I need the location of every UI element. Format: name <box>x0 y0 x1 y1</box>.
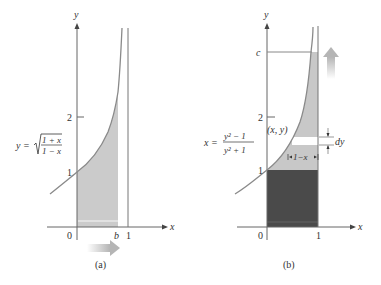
shaded-area-under-curve <box>77 92 118 227</box>
tick-label-x-1: 1 <box>316 230 321 241</box>
y-axis-arrow-icon <box>75 23 80 29</box>
tick-label-y-1: 1 <box>67 167 72 178</box>
svg-text:y =: y = <box>15 140 30 151</box>
point-label: (x, y) <box>267 124 288 136</box>
tick-label-x-0: 0 <box>258 230 263 241</box>
tick-label-y-c: c <box>256 47 261 58</box>
equation-a: y = 1 + x 1 − x <box>15 134 62 156</box>
y-axis-label: y <box>73 9 79 20</box>
svg-text:1−x: 1−x <box>293 152 308 162</box>
dark-square-region <box>267 170 318 227</box>
svg-text:x =: x = <box>203 137 218 148</box>
x-axis-arrow-icon <box>162 225 168 230</box>
tick-label-x-1: 1 <box>126 230 131 241</box>
tick-label-y-2: 2 <box>258 112 263 123</box>
x-axis-label: x <box>169 221 175 232</box>
x-axis-arrow-icon <box>350 225 356 230</box>
x-axis-label: x <box>357 221 363 232</box>
equation-b: x = y² − 1 y² + 1 <box>203 131 254 155</box>
panel-a: y x 2 1 0 b 1 y = 1 + x 1 − x (a) <box>15 9 175 271</box>
tick-label-x-0: 0 <box>67 230 72 241</box>
svg-text:1 + x: 1 + x <box>42 135 61 145</box>
svg-text:1 − x: 1 − x <box>42 146 61 156</box>
caption-a: (a) <box>95 259 106 271</box>
arrow-right-icon <box>87 240 120 256</box>
y-axis-label: y <box>263 9 269 20</box>
improper-integral-figure: y x 2 1 0 b 1 y = 1 + x 1 − x (a) <box>0 0 381 285</box>
dy-strip <box>292 137 318 145</box>
svg-text:y² + 1: y² + 1 <box>223 145 246 155</box>
dy-indicator: dy <box>319 128 345 154</box>
tick-label-x-b: b <box>114 230 119 241</box>
tick-label-y-2: 2 <box>67 112 72 123</box>
panel-b: y x c 2 1 0 1 (x, y) 1−x dy x = <box>203 9 363 271</box>
caption-b: (b) <box>283 259 295 271</box>
y-axis-arrow-icon <box>265 23 270 29</box>
tick-label-y-1: 1 <box>258 165 263 176</box>
svg-text:dy: dy <box>335 136 345 147</box>
arrow-up-icon <box>323 47 339 79</box>
svg-text:y² − 1: y² − 1 <box>223 131 246 141</box>
